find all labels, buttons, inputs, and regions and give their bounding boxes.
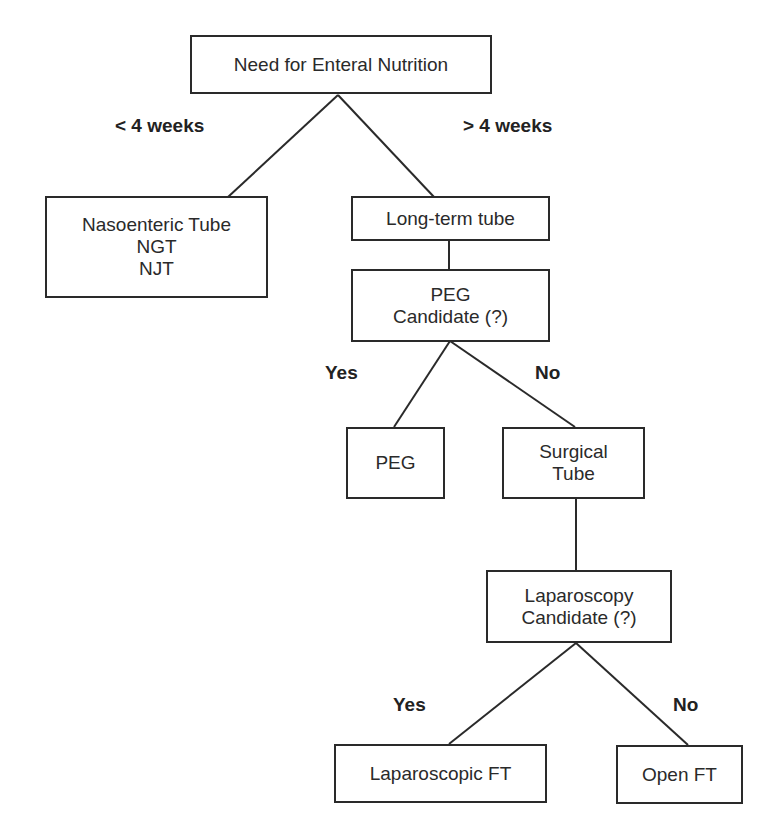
edge-label-lap-yes: Yes — [393, 694, 426, 716]
node-need-enteral-nutrition: Need for Enteral Nutrition — [190, 35, 492, 94]
edge-root-nasoenteric — [228, 95, 338, 197]
node-label: Tube — [552, 463, 595, 485]
node-peg: PEG — [346, 427, 445, 499]
edge-lapcandidate-openft — [576, 643, 688, 745]
edge-label-more-than-4-weeks: > 4 weeks — [463, 115, 552, 137]
flowchart-canvas: Need for Enteral Nutrition < 4 weeks > 4… — [0, 0, 783, 829]
edge-label-peg-no: No — [535, 362, 560, 384]
node-label: Nasoenteric Tube — [82, 214, 231, 236]
node-laparoscopic-ft: Laparoscopic FT — [334, 744, 547, 803]
node-label: Candidate (?) — [521, 607, 636, 629]
edge-label-lap-no: No — [673, 694, 698, 716]
edge-lapcandidate-lapft — [449, 643, 576, 744]
node-label: Open FT — [642, 764, 717, 786]
node-label: NJT — [139, 258, 174, 280]
node-label: Long-term tube — [386, 208, 515, 230]
node-long-term-tube: Long-term tube — [351, 196, 550, 241]
edge-pegcandidate-surgical — [450, 341, 575, 427]
node-label: Laparoscopy — [525, 585, 634, 607]
node-label: PEG — [375, 452, 415, 474]
node-label: Need for Enteral Nutrition — [234, 54, 448, 76]
node-label: Surgical — [539, 441, 608, 463]
node-nasoenteric-tube: Nasoenteric Tube NGT NJT — [45, 196, 268, 298]
node-label: Laparoscopic FT — [370, 763, 512, 785]
node-open-ft: Open FT — [616, 745, 743, 804]
node-peg-candidate: PEG Candidate (?) — [351, 269, 550, 342]
edge-label-peg-yes: Yes — [325, 362, 358, 384]
edge-root-longterm — [338, 95, 434, 197]
edge-pegcandidate-peg — [394, 341, 450, 427]
edge-label-less-than-4-weeks: < 4 weeks — [115, 115, 204, 137]
node-label: NGT — [136, 236, 176, 258]
node-laparoscopy-candidate: Laparoscopy Candidate (?) — [486, 570, 672, 643]
node-label: PEG — [430, 284, 470, 306]
node-label: Candidate (?) — [393, 306, 508, 328]
node-surgical-tube: Surgical Tube — [502, 427, 645, 499]
